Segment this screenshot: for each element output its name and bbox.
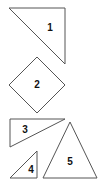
shape-3: 3 bbox=[10, 119, 65, 147]
label-3: 3 bbox=[22, 124, 28, 135]
label-2: 2 bbox=[34, 79, 40, 90]
shape-2: 2 bbox=[9, 57, 65, 113]
label-1: 1 bbox=[47, 22, 53, 33]
label-5: 5 bbox=[67, 156, 73, 167]
triangle-5 bbox=[43, 122, 97, 178]
label-4: 4 bbox=[28, 164, 34, 175]
triangle-3 bbox=[10, 119, 65, 147]
shapes-diagram: 1 2 3 4 5 bbox=[0, 0, 98, 181]
triangle-1 bbox=[9, 8, 65, 64]
shape-1: 1 bbox=[9, 8, 65, 64]
shape-4: 4 bbox=[10, 151, 37, 178]
shape-5: 5 bbox=[43, 122, 97, 178]
